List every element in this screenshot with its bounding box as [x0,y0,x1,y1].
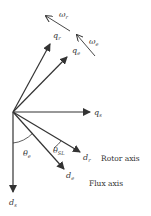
omega-e-label: ωe [89,37,99,47]
reference-frame-diagram: ωr ωe qr qe qs θe θSL dr Rotor axis de F… [0,0,151,216]
flux-axis-caption: Flux axis [89,179,123,188]
qr-label: qr [53,31,61,41]
ds-label: ds [9,198,17,208]
qe-label: qe [72,46,80,56]
de-label: de [66,171,74,181]
de-flux-axis [13,112,64,169]
dr-rotor-axis [13,112,80,152]
omega-r-label: ωr [59,10,69,20]
dr-label: dr [83,153,91,163]
rotor-axis-caption: Rotor axis [101,154,140,163]
theta-sl-label: θSL [53,146,65,156]
qs-label: qs [94,108,102,118]
theta-e-label: θe [23,149,31,159]
qr-axis [13,44,50,112]
theta-e-arc [13,133,33,143]
qe-axis [13,57,67,112]
